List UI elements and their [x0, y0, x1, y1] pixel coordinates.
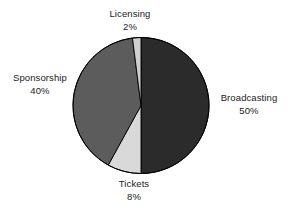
pie-chart-figure: Licensing 2% Broadcasting 50% Sponsorshi…: [0, 0, 292, 215]
pie-slice-group: [73, 38, 209, 174]
pie-chart-canvas: [0, 0, 292, 215]
pie-slice-broadcasting: [141, 38, 209, 174]
